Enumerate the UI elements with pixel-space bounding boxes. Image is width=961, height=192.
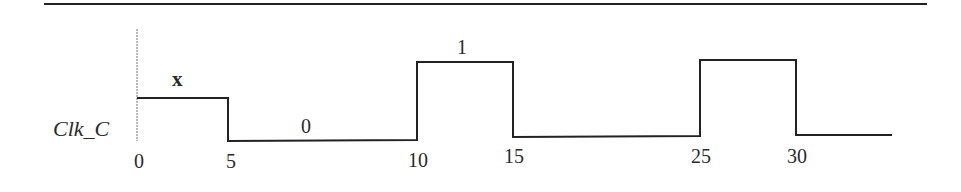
tick-label: 10	[408, 149, 428, 171]
segment-label-1: 1	[457, 36, 467, 58]
tick-label: 30	[787, 145, 807, 167]
timing-diagram: Clk_C x 0 1 0 5 10 15 25 30	[0, 0, 961, 192]
tick-label: 5	[226, 150, 236, 172]
segment-label-0: 0	[301, 115, 311, 137]
segment-label-x: x	[172, 67, 183, 91]
tick-label: 0	[134, 150, 144, 172]
signal-label: Clk_C	[53, 116, 110, 141]
clk-c-waveform	[137, 60, 892, 141]
tick-label: 25	[691, 145, 711, 167]
tick-label: 15	[504, 145, 524, 167]
